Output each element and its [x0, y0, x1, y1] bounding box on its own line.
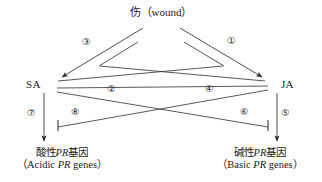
wound-to-ja-arrow [180, 28, 262, 77]
edge-label-5: ⑤ [281, 108, 290, 119]
edge-label-1: ① [227, 36, 236, 47]
acidic-pr-genes-cn: 酸性PR基因 [0, 147, 124, 159]
acidic-pr-genes-en: （Acidic PR genes） [0, 159, 124, 171]
wound-to-sa-arrow [62, 28, 143, 77]
wound-inner-left-line [99, 42, 138, 66]
edge-label-4: ④ [205, 84, 214, 95]
wound-inner-right-line [184, 42, 224, 66]
ja-to-sa-lower-inhibition [58, 90, 268, 131]
edge-label-6: ⑥ [240, 107, 249, 118]
edge-label-7: ⑦ [27, 108, 36, 119]
node-sa: SA [26, 78, 41, 91]
basic-pr-genes-label: 碱性PR基因 （Basic PR genes） [198, 147, 322, 171]
sa-to-ja-lower-inhibition [57, 92, 268, 131]
acidic-pr-genes-label: 酸性PR基因 （Acidic PR genes） [0, 147, 124, 171]
sa-upward-cross-line [58, 66, 223, 81]
basic-pr-genes-cn: 碱性PR基因 [198, 147, 322, 159]
ja-upward-cross-line [100, 66, 265, 81]
edge-label-2: ② [107, 84, 116, 95]
sa-to-ja-upper-line [57, 86, 268, 88]
node-ja: JA [281, 78, 294, 91]
diagram-page: 伤（wound） SA JA ③ ① ② ④ ⑧ ⑥ ⑦ ⑤ 酸性PR基因 （A… [0, 0, 322, 182]
wound-title: 伤（wound） [110, 6, 212, 19]
basic-pr-genes-en: （Basic PR genes） [198, 159, 322, 171]
edge-label-3: ③ [82, 37, 91, 48]
edge-label-8: ⑧ [71, 107, 80, 118]
